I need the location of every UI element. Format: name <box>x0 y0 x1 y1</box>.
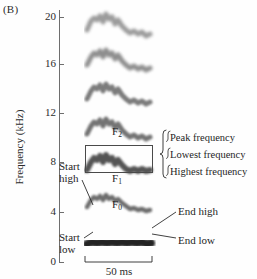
callout-start-low-line1: Start <box>59 231 80 243</box>
y-tick-label-4: 4 <box>28 206 56 217</box>
y-tick-4: 4 <box>24 206 56 218</box>
panel-label: (B) <box>3 3 18 15</box>
callout-start-low: Start low <box>59 231 80 255</box>
y-tick-label-8: 8 <box>28 156 56 167</box>
y-tick-16: 16 <box>24 58 56 70</box>
harmonic-band-f0 <box>87 242 151 244</box>
callout-start-low-line2: low <box>59 243 80 255</box>
y-tick-mark-20 <box>59 17 64 18</box>
bracket-label-peak-frequency: Peak frequency <box>170 129 257 146</box>
callout-end-low: End low <box>178 234 215 246</box>
y-tick-label-12: 12 <box>28 107 56 118</box>
y-tick-0: 0 <box>24 256 56 268</box>
y-tick-mark-4 <box>59 212 64 213</box>
y-tick-12: 12 <box>24 107 56 119</box>
formant-label-f1: F1 <box>112 172 122 184</box>
formant-label-f2: F2 <box>112 125 122 137</box>
callout-start-high: Start high <box>59 160 80 184</box>
bracket-label-lowest-frequency: Lowest frequency <box>170 146 257 163</box>
y-tick-label-20: 20 <box>28 11 56 22</box>
y-tick-label-0: 0 <box>28 256 56 267</box>
y-tick-20: 20 <box>24 11 56 23</box>
y-tick-mark-16 <box>59 64 64 65</box>
y-axis-line <box>59 10 60 263</box>
y-tick-label-16: 16 <box>28 58 56 69</box>
harmonic-band-h6 <box>87 50 150 70</box>
y-tick-mark-12 <box>59 113 64 114</box>
figure-panel-b: (B) Frequency (kHz) 20 16 12 8 4 0 <box>0 0 257 279</box>
bracket-outer-brace <box>160 130 166 178</box>
formant-label-f0: F0 <box>112 198 122 210</box>
y-axis-title: Frequency (kHz) <box>13 82 25 212</box>
measurement-box-f2 <box>85 145 153 173</box>
y-tick-8: 8 <box>24 156 56 168</box>
harmonic-band-h5 <box>87 84 150 104</box>
bracket-label-highest-frequency: Highest frequency <box>170 163 257 180</box>
callout-start-high-line1: Start <box>59 160 80 172</box>
time-scale-label: 50 ms <box>84 265 154 277</box>
bracket-measurement-labels: Peak frequency Lowest frequency Highest … <box>170 129 257 180</box>
harmonic-band-h7 <box>87 14 150 36</box>
y-tick-mark-0 <box>59 262 64 263</box>
callout-end-high: End high <box>178 205 218 217</box>
callout-start-high-line2: high <box>59 172 80 184</box>
